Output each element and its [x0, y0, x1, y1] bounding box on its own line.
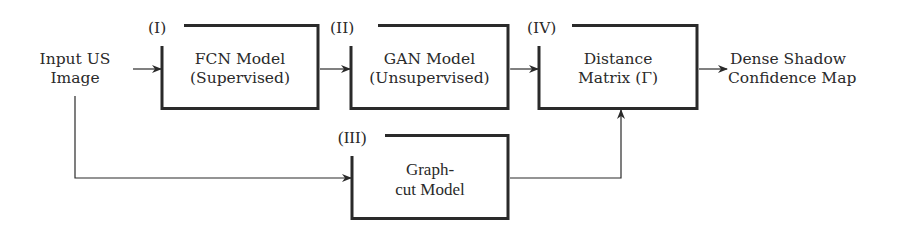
box-distance-subtitle: Matrix (Γ) [541, 69, 695, 88]
input-label: Input US Image [25, 50, 125, 88]
box-gan-title: GAN Model [353, 50, 506, 69]
box-distance-title: Distance [541, 50, 695, 69]
box-graphcut-subtitle: cut Model [354, 180, 506, 200]
output-label: Dense Shadow Confidence Map [728, 50, 848, 88]
box-fcn-subtitle: (Supervised) [164, 69, 316, 88]
box-distance-tag: (IV) [527, 19, 556, 38]
box-gan-subtitle: (Unsupervised) [353, 69, 506, 88]
output-label-line1: Dense Shadow [728, 50, 848, 69]
input-label-line2: Image [25, 69, 125, 88]
box-fcn-title: FCN Model [164, 50, 316, 69]
box-distance: Distance Matrix (Γ) [541, 50, 695, 88]
box-fcn: FCN Model (Supervised) [164, 50, 316, 88]
diagram-wires [0, 0, 915, 239]
box-graphcut-tag: (III) [338, 128, 366, 147]
input-label-line1: Input US [25, 50, 125, 69]
box-graphcut-title: Graph- [354, 160, 506, 180]
output-label-line2: Confidence Map [728, 69, 848, 88]
box-gan-tag: (II) [330, 19, 354, 38]
box-graphcut: Graph- cut Model [354, 160, 506, 200]
box-fcn-tag: (I) [148, 19, 166, 38]
box-gan: GAN Model (Unsupervised) [353, 50, 506, 88]
arrow-graphcut-to-distance [510, 110, 621, 178]
